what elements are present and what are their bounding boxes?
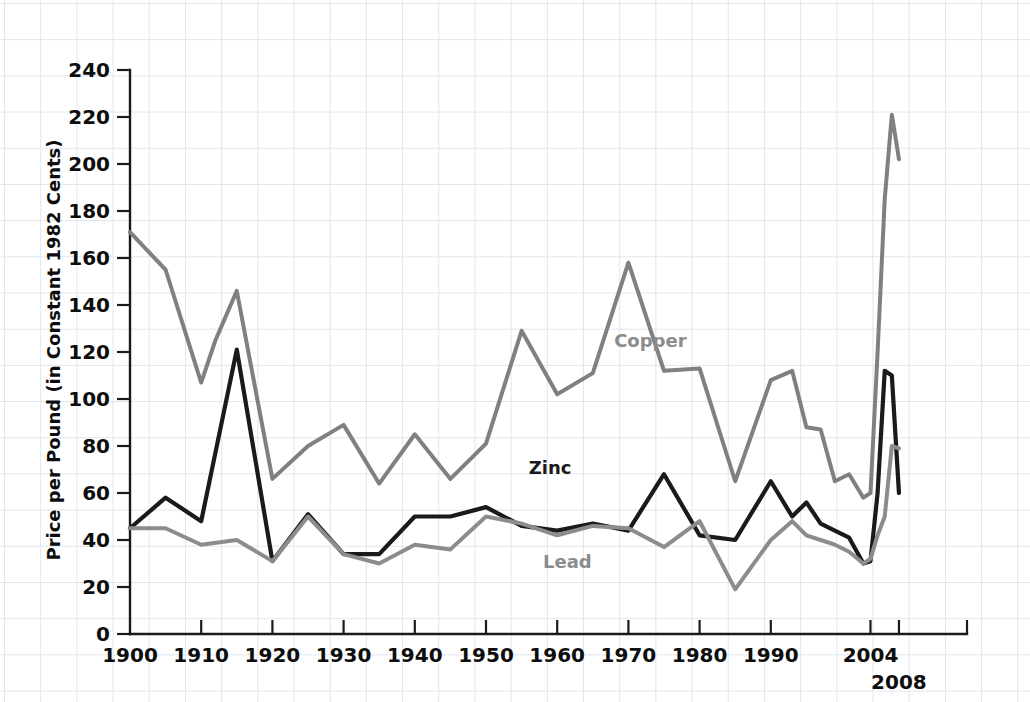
x-tick-label: 1980 — [672, 643, 728, 667]
x-tick-label: 1960 — [529, 643, 585, 667]
series-label-copper: Copper — [614, 330, 687, 351]
x-tick-label: 1920 — [245, 643, 301, 667]
x-tick-label: 2004 — [843, 643, 899, 667]
series-label-zinc: Zinc — [529, 457, 572, 478]
y-tick-label: 140 — [68, 293, 110, 317]
metal-prices-line-chart: Price per Pound (in Constant 1982 Cents)… — [0, 0, 1030, 702]
x-tick-label: 2008 — [871, 670, 927, 694]
series-line-copper — [130, 115, 899, 498]
y-tick-label: 100 — [68, 387, 110, 411]
y-tick-label: 180 — [68, 199, 110, 223]
x-tick-label: 1900 — [102, 643, 158, 667]
y-axis: 020406080100120140160180200220240 — [68, 58, 130, 646]
y-tick-label: 80 — [82, 434, 110, 458]
series-line-lead — [130, 446, 899, 589]
y-tick-label: 220 — [68, 105, 110, 129]
y-tick-label: 120 — [68, 340, 110, 364]
x-tick-label: 1930 — [316, 643, 372, 667]
y-tick-label: 200 — [68, 152, 110, 176]
y-axis-title-text: Price per Pound (in Constant 1982 Cents) — [43, 139, 64, 560]
y-tick-label: 60 — [82, 481, 110, 505]
x-tick-label: 1970 — [601, 643, 657, 667]
series-layer — [130, 115, 899, 590]
x-tick-label: 1940 — [387, 643, 443, 667]
series-line-zinc — [130, 350, 899, 564]
y-tick-label: 20 — [82, 575, 110, 599]
y-tick-label: 160 — [68, 246, 110, 270]
y-axis-title: Price per Pound (in Constant 1982 Cents) — [43, 139, 64, 560]
chart-page: Price per Pound (in Constant 1982 Cents)… — [0, 0, 1030, 702]
x-tick-label: 1950 — [458, 643, 514, 667]
y-tick-label: 240 — [68, 58, 110, 82]
x-tick-label: 1990 — [743, 643, 799, 667]
x-tick-label: 1910 — [173, 643, 229, 667]
series-label-lead: Lead — [543, 551, 592, 572]
x-axis: 1900191019201930194019501960197019801990… — [102, 620, 967, 694]
y-tick-label: 40 — [82, 528, 110, 552]
